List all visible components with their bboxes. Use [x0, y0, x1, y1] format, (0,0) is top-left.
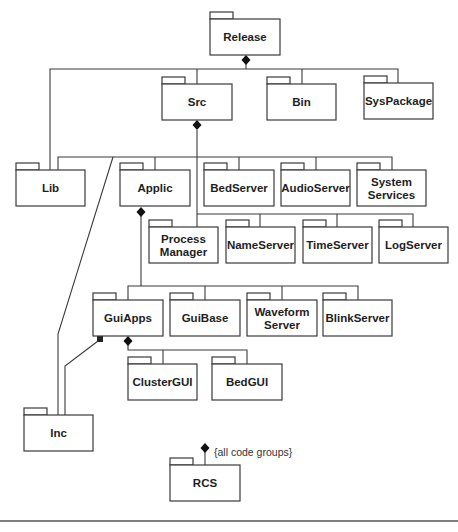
- package-src[interactable]: Src: [162, 77, 232, 120]
- package-blinkserver[interactable]: BlinkServer: [323, 293, 392, 336]
- package-tab: [16, 163, 39, 170]
- package-tab: [281, 163, 304, 170]
- guiapps-to-inc: [65, 341, 98, 415]
- rcs-note: {all code groups}: [214, 446, 293, 458]
- package-tab: [93, 293, 116, 300]
- package-label: RCS: [193, 477, 218, 489]
- package-syspackage[interactable]: SysPackage: [364, 76, 433, 119]
- package-label: Inc: [50, 427, 67, 439]
- package-tab: [210, 12, 233, 19]
- package-tab: [357, 163, 380, 170]
- package-lib[interactable]: Lib: [16, 163, 85, 206]
- package-diagram: ReleaseSrcBinSysPackageLibApplicBedServe…: [0, 0, 458, 532]
- package-audioserver[interactable]: AudioServer: [281, 163, 350, 206]
- package-label: Lib: [42, 182, 59, 194]
- package-tab: [204, 163, 227, 170]
- package-label: Waveform: [254, 306, 309, 318]
- package-label: Bin: [292, 96, 311, 108]
- package-tab: [120, 163, 143, 170]
- release-diamond-icon: [242, 55, 251, 65]
- package-bedserver[interactable]: BedServer: [204, 163, 274, 206]
- package-label: BedGUI: [226, 376, 268, 388]
- package-tab: [303, 220, 326, 227]
- package-rcs[interactable]: RCS: [170, 458, 240, 501]
- package-guiapps[interactable]: GuiApps: [93, 293, 163, 336]
- guiapps-diamond-icon: [124, 336, 133, 346]
- package-timeserver[interactable]: TimeServer: [303, 220, 372, 263]
- package-label: Manager: [160, 246, 208, 258]
- package-tab: [247, 293, 270, 300]
- package-label: Services: [368, 189, 415, 201]
- package-tab: [364, 76, 387, 83]
- package-tab: [226, 220, 249, 227]
- package-bedgui[interactable]: BedGUI: [212, 357, 282, 400]
- package-label: Release: [223, 31, 266, 43]
- applic-diamond-icon: [137, 207, 146, 217]
- package-label: SysPackage: [365, 95, 432, 107]
- package-waveformserver[interactable]: WaveformServer: [247, 293, 317, 336]
- package-tab: [323, 293, 346, 300]
- rcs-diamond-icon: [201, 443, 210, 453]
- package-clustergui[interactable]: ClusterGUI: [128, 357, 197, 400]
- package-label: GuiBase: [182, 312, 229, 324]
- src-diamond-icon: [193, 120, 202, 130]
- package-tab: [379, 220, 402, 227]
- package-guibase[interactable]: GuiBase: [170, 293, 240, 336]
- package-bin[interactable]: Bin: [267, 77, 336, 120]
- package-label: LogServer: [385, 239, 442, 251]
- package-inc[interactable]: Inc: [24, 408, 93, 451]
- package-tab: [24, 408, 47, 415]
- package-label: System: [371, 176, 412, 188]
- package-label: AudioServer: [281, 182, 350, 194]
- package-label: NameServer: [227, 239, 295, 251]
- package-systemservices[interactable]: SystemServices: [357, 163, 426, 206]
- package-release[interactable]: Release: [210, 12, 280, 55]
- package-tab: [267, 77, 290, 84]
- packages: ReleaseSrcBinSysPackageLibApplicBedServe…: [16, 12, 448, 501]
- package-label: TimeServer: [306, 239, 369, 251]
- package-logserver[interactable]: LogServer: [379, 220, 448, 263]
- package-label: Server: [264, 319, 300, 331]
- package-label: BedServer: [210, 182, 268, 194]
- package-tab: [162, 77, 185, 84]
- package-tab: [149, 220, 172, 227]
- package-label: GuiApps: [104, 312, 152, 324]
- package-nameserver[interactable]: NameServer: [226, 220, 295, 263]
- package-tab: [212, 357, 235, 364]
- connectors: [50, 64, 413, 465]
- package-applic[interactable]: Applic: [120, 163, 190, 206]
- package-label: BlinkServer: [326, 312, 390, 324]
- package-label: Process: [161, 233, 206, 245]
- package-tab: [170, 458, 193, 465]
- package-label: Src: [188, 96, 207, 108]
- guiapps-square-icon: [97, 336, 103, 342]
- package-label: ClusterGUI: [132, 376, 192, 388]
- package-processmanager[interactable]: ProcessManager: [149, 220, 218, 263]
- package-tab: [128, 357, 151, 364]
- package-tab: [170, 293, 193, 300]
- package-label: Applic: [137, 182, 173, 194]
